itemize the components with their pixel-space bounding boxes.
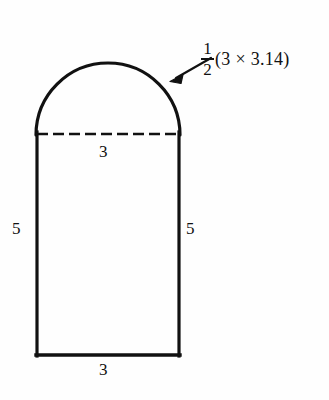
one-half-fraction: 1 2 <box>201 40 214 78</box>
fraction-denominator: 2 <box>201 60 214 78</box>
semicircle-arc <box>36 63 180 135</box>
dimension-label-left-side: 5 <box>12 220 21 237</box>
dimension-label-bottom: 3 <box>99 361 108 378</box>
figure-canvas: 5 5 3 3 1 2 (3 × 3.14) <box>0 0 329 400</box>
fraction-numerator: 1 <box>201 40 214 58</box>
formula-expression: (3 × 3.14) <box>215 49 290 70</box>
dimension-label-diameter: 3 <box>99 143 108 160</box>
arc-length-formula: 1 2 (3 × 3.14) <box>201 40 290 78</box>
dimension-label-right-side: 5 <box>186 220 195 237</box>
